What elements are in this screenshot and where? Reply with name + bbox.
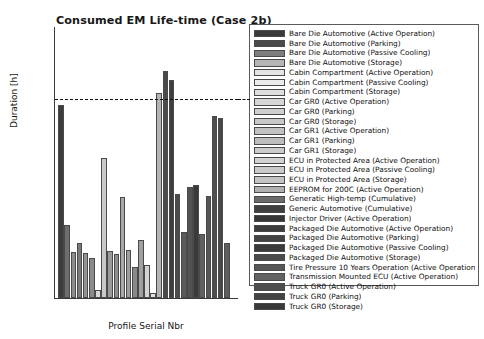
x-tick-mark xyxy=(116,298,117,299)
legend-swatch xyxy=(254,215,285,222)
legend-swatch xyxy=(254,79,285,86)
legend-swatch xyxy=(254,69,285,76)
y-tick-minor xyxy=(54,258,55,259)
legend-label: Packaged Die Automotive (Active Operatio… xyxy=(289,224,453,234)
legend-label: Injector Driver (Active Operation) xyxy=(289,214,411,224)
legend-swatch xyxy=(254,205,285,212)
y-tick-minor xyxy=(54,190,55,191)
legend-item: Bare Die Automotive (Passive Cooling) xyxy=(254,48,475,58)
legend-item: Car GR1 (Parking) xyxy=(254,136,475,146)
bar xyxy=(218,118,224,298)
legend-label: Generatic High-temp (Cumulative) xyxy=(289,194,416,204)
y-tick-mark xyxy=(54,95,55,96)
bar xyxy=(163,71,169,298)
bar xyxy=(89,258,95,298)
legend-item: Car GR0 (Active Operation) xyxy=(254,97,475,107)
legend-item: Car GR0 (Storage) xyxy=(254,117,475,127)
legend-label: Car GR0 (Storage) xyxy=(289,117,356,127)
bar xyxy=(144,265,150,298)
y-tick-minor xyxy=(54,54,55,55)
bar xyxy=(175,194,181,298)
y-tick-minor xyxy=(54,251,55,252)
legend-swatch xyxy=(254,196,285,203)
bar xyxy=(181,232,187,298)
legend-swatch xyxy=(254,264,285,271)
y-tick-minor xyxy=(54,38,55,39)
bar xyxy=(64,225,70,298)
legend-swatch xyxy=(254,98,285,105)
bar xyxy=(101,158,107,298)
legend-item: Bare Die Automotive (Active Operation) xyxy=(254,29,475,39)
bar xyxy=(95,290,101,298)
y-tick-minor xyxy=(54,178,55,179)
y-tick-minor xyxy=(54,199,55,200)
legend-item: Generatic High-temp (Cumulative) xyxy=(254,194,475,204)
bar xyxy=(224,243,230,298)
y-tick-minor xyxy=(54,30,55,31)
y-tick-minor xyxy=(54,34,55,35)
legend-label: Car GR0 (Active Operation) xyxy=(289,97,389,107)
legend-label: Bare Die Automotive (Parking) xyxy=(289,39,401,49)
legend-swatch xyxy=(254,235,285,242)
y-tick-minor xyxy=(54,47,55,48)
bar xyxy=(71,252,77,298)
legend-swatch xyxy=(254,50,285,57)
y-tick-mark xyxy=(54,231,55,232)
y-tick-minor xyxy=(54,110,55,111)
y-tick-minor xyxy=(54,75,55,76)
y-tick-minor xyxy=(54,102,55,103)
legend-item: Bare Die Automotive (Parking) xyxy=(254,39,475,49)
legend-label: Car GR1 (Parking) xyxy=(289,136,355,146)
legend-swatch xyxy=(254,293,285,300)
y-tick-mark xyxy=(54,163,55,164)
legend-label: Car GR1 (Active Operation) xyxy=(289,126,389,136)
bar xyxy=(77,243,83,298)
legend-item: Car GR1 (Storage) xyxy=(254,146,475,156)
legend-label: Packaged Die Automotive (Parking) xyxy=(289,233,419,243)
legend-item: Truck GR0 (Storage) xyxy=(254,302,475,312)
y-axis-title: Duration [h] xyxy=(9,73,19,128)
legend-label: EEPROM for 200C (Active Operation) xyxy=(289,185,424,195)
bar xyxy=(132,267,138,298)
legend-swatch xyxy=(254,273,285,280)
legend-item: Tire Pressure 10 Years Operation (Active… xyxy=(254,263,475,273)
legend-label: Bare Die Automotive (Storage) xyxy=(289,58,402,68)
legend-swatch xyxy=(254,108,285,115)
threshold-line-extension xyxy=(238,99,250,100)
y-tick-minor xyxy=(54,131,55,132)
bar xyxy=(83,253,89,298)
legend-swatch xyxy=(254,283,285,290)
y-tick-minor xyxy=(54,238,55,239)
legend-swatch xyxy=(254,254,285,261)
legend-swatch xyxy=(254,30,285,37)
x-axis-title: Profile Serial Nbr xyxy=(108,321,183,331)
legend-item: Bare Die Automotive (Storage) xyxy=(254,58,475,68)
legend-item: Car GR1 (Active Operation) xyxy=(254,126,475,136)
legend-label: Cabin Compartment (Passive Cooling) xyxy=(289,78,428,88)
y-tick-minor xyxy=(54,234,55,235)
legend-label: Truck GR0 (Active Operation) xyxy=(289,282,396,292)
bar xyxy=(206,196,212,298)
legend-item: Packaged Die Automotive (Passive Cooling… xyxy=(254,243,475,253)
bar xyxy=(199,234,205,298)
bars-layer xyxy=(55,27,238,298)
plot-area: 102103104105106 0102030 xyxy=(54,27,238,299)
chart-title: Consumed EM Life-time (Case 2b) xyxy=(56,14,246,27)
bar xyxy=(126,250,132,298)
y-tick-mark xyxy=(54,27,55,28)
legend-item: Truck GR0 (Parking) xyxy=(254,292,475,302)
legend-label: Cabin Compartment (Storage) xyxy=(289,87,400,97)
bar xyxy=(107,251,113,298)
legend-item: Truck GR0 (Active Operation) xyxy=(254,282,475,292)
y-tick-minor xyxy=(54,42,55,43)
legend-label: Packaged Die Automotive (Passive Cooling… xyxy=(289,243,449,253)
bar xyxy=(187,187,193,298)
legend-item: Packaged Die Automotive (Active Operatio… xyxy=(254,224,475,234)
y-tick-minor xyxy=(54,174,55,175)
bar xyxy=(193,185,199,298)
legend-swatch xyxy=(254,176,285,183)
threshold-line xyxy=(55,99,238,100)
legend-label: Truck GR0 (Parking) xyxy=(289,292,361,302)
legend-swatch xyxy=(254,157,285,164)
legend-swatch xyxy=(254,186,285,193)
